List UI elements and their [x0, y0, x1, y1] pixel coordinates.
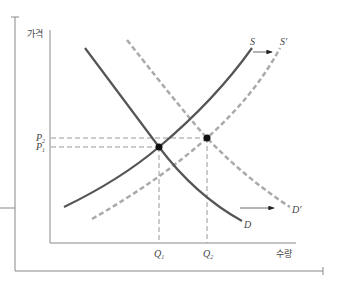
supply-label: S — [250, 36, 255, 47]
demand-label: D — [243, 219, 252, 230]
supply-shifted-label: S′ — [280, 36, 288, 47]
quantity-label-q1: Q1 — [154, 248, 164, 260]
equilibrium-point-1 — [156, 144, 163, 151]
supply-demand-diagram: 가격 수량 S S′ D D′ P2 P1 Q1 Q2 — [0, 0, 337, 289]
guide-lines — [51, 138, 207, 243]
supply-curve — [64, 48, 252, 207]
y-axis-label: 가격 — [27, 28, 43, 39]
x-axis-label: 수량 — [276, 248, 292, 259]
demand-shifted-label: D′ — [291, 204, 302, 215]
demand-shifted-curve — [127, 40, 290, 207]
supply-shifted-curve — [92, 48, 280, 219]
demand-curve — [85, 48, 242, 221]
axes — [50, 30, 296, 243]
quantity-label-q2: Q2 — [203, 248, 213, 260]
equilibrium-point-2 — [204, 135, 211, 142]
